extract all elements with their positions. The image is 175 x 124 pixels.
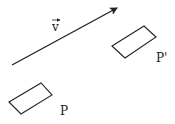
vector-arrow bbox=[12, 8, 117, 65]
vector-label-text: v bbox=[51, 20, 59, 34]
shape-p-prime-label: P' bbox=[156, 51, 167, 65]
shape-p bbox=[9, 83, 52, 114]
shape-p-prime bbox=[112, 26, 156, 58]
shape-p-label: P bbox=[60, 104, 68, 118]
vector-label: v bbox=[51, 20, 60, 34]
translation-diagram: v P P' bbox=[0, 0, 175, 124]
